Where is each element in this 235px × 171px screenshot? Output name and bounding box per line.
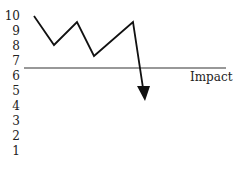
trajectory-line [34, 16, 143, 88]
impact-label: Impact [190, 70, 233, 84]
impact-chart: 10 9 8 7 6 5 4 3 2 1 Impact [0, 0, 235, 171]
plot-area [0, 0, 235, 171]
arrow-head-icon [137, 86, 150, 101]
